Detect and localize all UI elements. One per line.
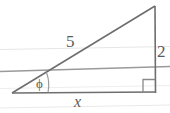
hypotenuse-label: 5 (66, 33, 75, 50)
geometry-diagram (0, 0, 170, 113)
angle-arc-marker (47, 73, 49, 93)
base-label: x (74, 94, 81, 110)
triangle-base-line (12, 92, 156, 93)
figure-canvas: 5 2 x ϕ (0, 0, 170, 113)
triangle-vertical-leg-line (155, 6, 156, 93)
vertical-leg-label: 2 (157, 43, 166, 60)
ruled-line-2 (0, 86, 170, 89)
ruled-line-3 (0, 105, 170, 108)
angle-phi-label: ϕ (36, 77, 43, 90)
crossing-horizontal-line (0, 67, 170, 72)
ruled-lines-group (0, 47, 170, 109)
